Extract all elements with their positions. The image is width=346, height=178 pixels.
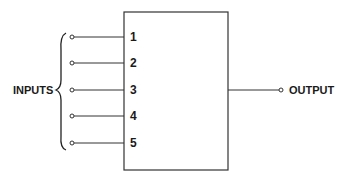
inputs-label: INPUTS — [13, 84, 53, 96]
input-terminal-icon — [70, 61, 74, 65]
input-terminal-icon — [70, 141, 74, 145]
input-pin-number: 4 — [130, 109, 137, 123]
output-label: OUTPUT — [289, 84, 335, 96]
input-pin-number: 2 — [130, 56, 137, 70]
input-pin-number: 1 — [130, 30, 137, 44]
input-terminal-icon — [70, 114, 74, 118]
block-box — [124, 12, 228, 170]
input-terminal-icon — [70, 88, 74, 92]
input-pin-number: 3 — [130, 83, 137, 97]
block-diagram: 12345 INPUTS OUTPUT — [0, 0, 346, 178]
input-terminal-icon — [70, 35, 74, 39]
output-terminal-icon — [279, 88, 283, 92]
input-lines: 12345 — [70, 30, 137, 150]
input-pin-number: 5 — [130, 136, 137, 150]
input-brace-icon — [56, 33, 66, 150]
